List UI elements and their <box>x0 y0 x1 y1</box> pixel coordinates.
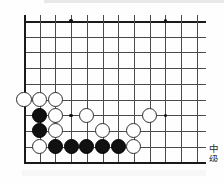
grid-line-vertical <box>165 15 166 162</box>
grid-line-vertical <box>181 15 182 162</box>
caption-char-2: 级 <box>206 155 222 162</box>
white-stone[interactable] <box>48 123 63 138</box>
white-stone[interactable] <box>142 108 157 123</box>
grid-line-horizontal <box>24 162 206 164</box>
white-stone[interactable] <box>95 123 110 138</box>
white-stone[interactable] <box>126 139 141 154</box>
white-stone[interactable] <box>48 108 63 123</box>
grid-line-vertical <box>150 15 151 162</box>
white-stone[interactable] <box>126 123 141 138</box>
grid-line-horizontal <box>24 21 206 23</box>
grid-line-horizontal <box>24 84 206 85</box>
black-stone[interactable] <box>32 123 47 138</box>
grid-line-horizontal <box>24 68 206 69</box>
black-stone[interactable] <box>111 139 126 154</box>
grid-line-vertical <box>24 15 26 162</box>
white-stone[interactable] <box>16 92 31 107</box>
side-caption: 中 级 <box>206 144 222 162</box>
white-stone[interactable] <box>32 139 47 154</box>
black-stone[interactable] <box>48 139 63 154</box>
paper-shade <box>22 170 206 176</box>
white-stone[interactable] <box>48 92 63 107</box>
star-point <box>69 19 72 22</box>
star-point <box>164 19 167 22</box>
grid-line-horizontal <box>24 52 206 53</box>
grid-line-vertical <box>197 15 198 162</box>
go-board[interactable] <box>0 0 224 185</box>
grid-line-horizontal <box>24 37 206 38</box>
white-stone[interactable] <box>32 92 47 107</box>
black-stone[interactable] <box>32 108 47 123</box>
screenshot-root: 中 级 <box>0 0 224 185</box>
black-stone[interactable] <box>64 139 79 154</box>
white-stone[interactable] <box>79 108 94 123</box>
star-point <box>69 114 72 117</box>
star-point <box>164 114 167 117</box>
black-stone[interactable] <box>79 139 94 154</box>
caption-char-1: 中 <box>206 144 222 155</box>
black-stone[interactable] <box>95 139 110 154</box>
